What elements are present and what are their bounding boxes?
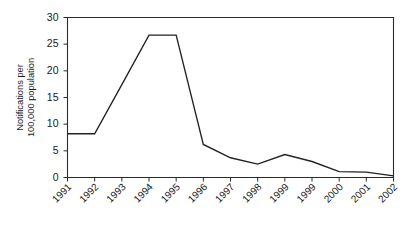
x-axis-tick-label: 1997 [213, 181, 237, 205]
x-axis-tick-label: 1991 [50, 181, 74, 205]
plot-frame [68, 18, 394, 178]
y-axis-tick-label: 20 [47, 64, 59, 76]
frame-border [68, 18, 394, 178]
y-axis-tick-label: 0 [53, 171, 59, 183]
y-axis-tick-label: 10 [47, 117, 59, 129]
y-axis-tick-label: 25 [47, 37, 59, 49]
x-axis-tick-label: 1999 [294, 181, 318, 205]
x-axis-tick-label: 2000 [322, 181, 346, 205]
x-axis-tick-label: 1998 [240, 181, 264, 205]
y-axis-tick-label: 15 [47, 91, 59, 103]
y-axis-title-line1: Notifications per [15, 64, 25, 131]
x-axis-tick-label: 1992 [77, 181, 101, 205]
y-axis-title: Notifications per 100,000 population [15, 58, 36, 137]
x-axis-tick-marks [68, 178, 394, 182]
x-axis-tick-label: 1994 [131, 181, 155, 205]
y-axis-title-line2: 100,000 population [26, 58, 36, 137]
y-axis-tick-labels: 051015202530 [47, 11, 59, 183]
y-axis-tick-label: 30 [47, 11, 59, 23]
line-chart: 051015202530 199119921993199419951996199… [0, 0, 412, 225]
x-axis-tick-labels: 1991199219931994199519961997199819991999… [50, 181, 400, 205]
x-axis-tick-label: 2001 [349, 181, 373, 205]
y-axis-tick-marks [64, 18, 68, 178]
x-axis-tick-label: 1993 [104, 181, 128, 205]
x-axis-tick-label: 1996 [186, 181, 210, 205]
chart-figure: 051015202530 199119921993199419951996199… [0, 0, 412, 225]
data-series-line [68, 35, 394, 176]
x-axis-tick-label: 2002 [376, 181, 400, 205]
y-axis-tick-label: 5 [53, 144, 59, 156]
x-axis-tick-label: 1995 [159, 181, 183, 205]
x-axis-tick-label: 1999 [267, 181, 291, 205]
